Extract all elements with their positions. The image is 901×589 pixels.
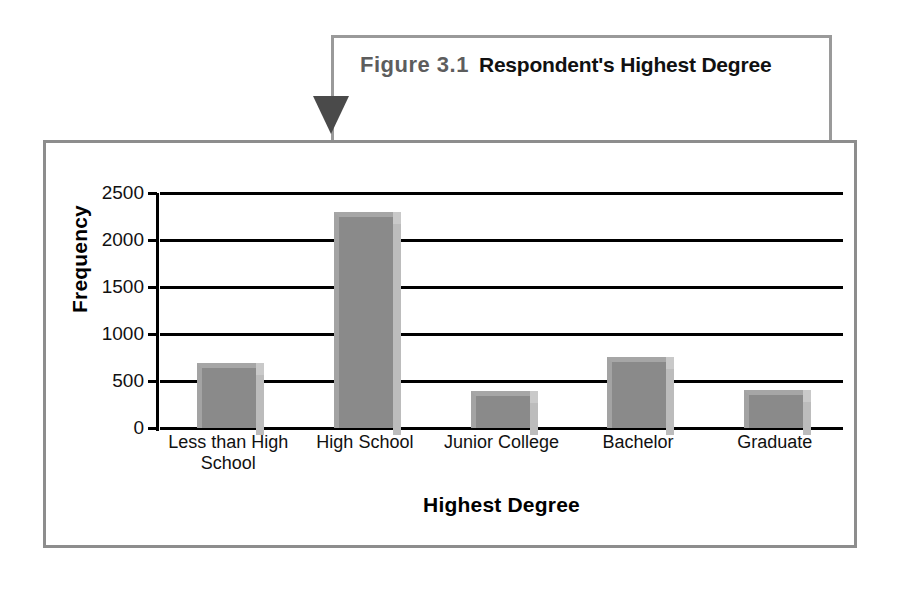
gridline <box>160 192 843 195</box>
y-axis-line <box>156 193 159 431</box>
chart-frame: Frequency 05001000150020002500 Less than… <box>43 140 857 548</box>
bar <box>471 391 533 428</box>
y-axis-tick-label: 0 <box>133 417 144 439</box>
gridline <box>160 239 843 242</box>
y-axis-tick <box>148 380 157 383</box>
x-axis-title: Highest Degree <box>160 493 843 517</box>
callout-arrow-icon <box>313 96 349 134</box>
x-axis-tick-label: Bachelor <box>572 432 704 453</box>
x-axis-tick-label: High School <box>299 432 431 453</box>
y-axis-tick <box>148 192 157 195</box>
y-axis-tick-label: 2000 <box>102 229 144 251</box>
y-axis-tick <box>148 239 157 242</box>
y-axis-tick <box>148 286 157 289</box>
y-axis-tick <box>148 427 157 430</box>
y-axis-tick-label: 500 <box>112 370 144 392</box>
bar <box>607 357 669 428</box>
y-axis-tick-label: 2500 <box>102 182 144 204</box>
figure-title-text: Respondent's Highest Degree <box>479 53 772 76</box>
gridline <box>160 333 843 336</box>
y-axis-tick <box>148 333 157 336</box>
y-axis-tick-label: 1500 <box>102 276 144 298</box>
y-axis-title: Frequency <box>68 205 92 313</box>
figure-number: Figure 3.1 <box>360 52 469 77</box>
x-axis-tick-label: Junior College <box>436 432 568 453</box>
figure-title: Figure 3.1Respondent's Highest Degree <box>360 50 810 79</box>
x-axis-tick-label: Less than High School <box>162 432 294 474</box>
bar <box>744 390 806 428</box>
plot-area: 05001000150020002500 Less than High Scho… <box>160 193 843 428</box>
gridline <box>160 286 843 289</box>
bar <box>197 363 259 428</box>
y-axis-tick-label: 1000 <box>102 323 144 345</box>
bar <box>334 212 396 428</box>
x-axis-tick-label: Graduate <box>709 432 841 453</box>
